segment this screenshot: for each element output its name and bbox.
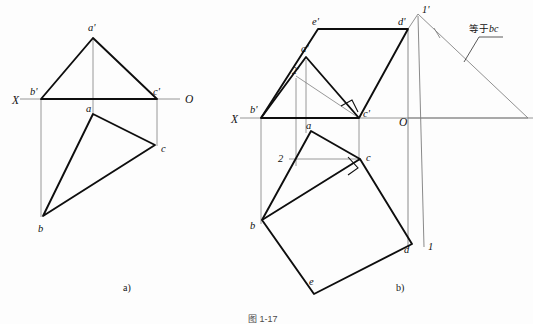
sub-caption-b: b) (396, 282, 404, 294)
sub-caption-a: a) (123, 282, 131, 294)
diagram-b-label-d-prime: d' (398, 16, 406, 27)
diagram-b-upper-triangle (261, 57, 359, 118)
diagram-b-label-one: 1 (428, 241, 433, 252)
diagram-a-label-c: c (161, 143, 166, 154)
equals-bc-leader-line (464, 37, 503, 62)
diagram-b-label-c: c (366, 152, 371, 163)
diagram-a-label-a: a (86, 103, 91, 114)
diagram-b-label-b-prime: b' (250, 104, 258, 115)
equals-bc-it-text: bc (489, 23, 499, 34)
diagram-b-group: 等于bc X O e' d' 1' a' 2' b' c' a 2 c b d … (230, 4, 533, 294)
diagram-b-label-e-prime: e' (312, 16, 320, 27)
diagram-b-lower-triangle (262, 131, 360, 220)
diagram-a-o-label: O (185, 93, 194, 105)
diagram-b-label-a: a (306, 120, 311, 131)
diagram-b-label-two-prime: 2' (292, 66, 300, 76)
equals-bc-cn-text: 等于 (469, 23, 489, 34)
diagram-a-group: X O a' b' c' a b c (11, 22, 194, 234)
diagram-b-upper-parallelogram (261, 29, 408, 118)
figure-container: X O a' b' c' a b c (0, 0, 533, 324)
diagram-a-upper-triangle (41, 38, 157, 99)
diagram-b-label-two: 2 (278, 153, 284, 164)
diagram-a-x-label: X (11, 94, 20, 106)
diagram-b-label-d: d (404, 244, 410, 255)
diagram-b-bc-construction-triangle (408, 14, 528, 118)
diagram-b-label-c-prime: c' (363, 108, 371, 119)
diagram-a-lower-triangle (43, 114, 155, 216)
diagram-b-label-a-prime: a' (301, 43, 309, 54)
diagram-a-label-c-prime: c' (153, 86, 161, 97)
diagram-b-construction-tick (434, 28, 440, 38)
diagram-b-label-b: b (250, 220, 255, 231)
figure-caption: 图 1-17 (248, 314, 278, 324)
equals-bc-annotation: 等于bc (469, 23, 499, 34)
diagram-b-label-one-prime: 1' (422, 4, 430, 15)
technical-drawing-svg: X O a' b' c' a b c (0, 0, 533, 324)
diagram-b-label-e: e (309, 276, 314, 287)
diagram-a-label-b-prime: b' (30, 86, 38, 97)
diagram-b-o-label: O (399, 116, 408, 128)
diagram-a-label-a-prime: a' (88, 22, 96, 33)
diagram-b-x-label: X (230, 113, 239, 125)
diagram-b-projector-one-prime (418, 16, 424, 247)
diagram-a-label-b: b (38, 223, 43, 234)
